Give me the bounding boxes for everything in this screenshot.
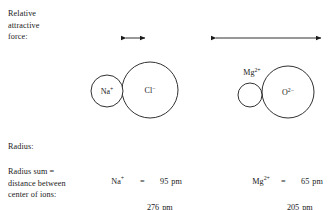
ionic-radius-comparison-figure: Relative attractive force: Radius: Radiu… [0, 0, 330, 210]
mg-cation-circle-label: Mg2+ [243, 67, 260, 77]
mg-cation-circle [238, 83, 262, 107]
figure-graphics-layer: Na+ Cl− Mg2+ O2− [0, 0, 330, 210]
